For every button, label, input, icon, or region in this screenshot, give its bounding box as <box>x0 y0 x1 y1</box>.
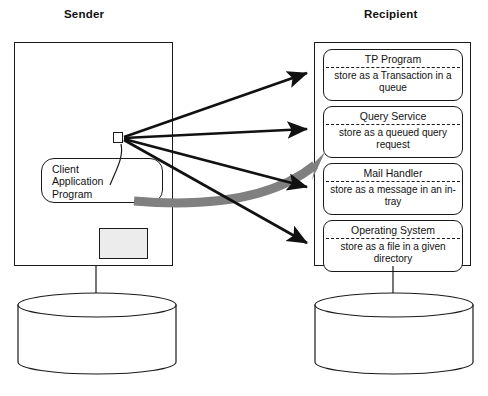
sender-datastore-cylinder <box>18 293 176 374</box>
sender-column-title: Sender <box>64 8 104 20</box>
service-name: TP Program <box>324 50 462 67</box>
client-application-port-icon <box>113 132 123 143</box>
sender-secondary-box[interactable] <box>99 228 148 259</box>
service-name: Query Service <box>324 107 462 124</box>
service-action: store as a file in a given directory <box>324 239 462 267</box>
service-name: Operating System <box>324 221 462 238</box>
service-box-tp-program[interactable]: TP Program store as a Transaction in a q… <box>323 49 463 101</box>
recipient-container: TP Program store as a Transaction in a q… <box>314 42 471 266</box>
service-box-operating-system[interactable]: Operating System store as a file in a gi… <box>323 220 463 272</box>
service-action: store as a message in an in-tray <box>324 182 462 210</box>
diagram-canvas: Sender Recipient Client Application Prog… <box>0 0 488 396</box>
service-action: store as a Transaction in a queue <box>324 68 462 96</box>
service-box-mail-handler[interactable]: Mail Handler store as a message in an in… <box>323 163 463 215</box>
service-action: store as a queued query request <box>324 125 462 153</box>
service-name: Mail Handler <box>324 164 462 181</box>
client-application-program-label: Client Application Program <box>52 163 103 200</box>
client-application-program-box[interactable]: Client Application Program <box>41 158 163 203</box>
recipient-datastore-cylinder <box>315 293 473 374</box>
service-box-query-service[interactable]: Query Service store as a queued query re… <box>323 106 463 158</box>
recipient-column-title: Recipient <box>364 8 418 20</box>
sender-container: Client Application Program <box>14 42 173 266</box>
